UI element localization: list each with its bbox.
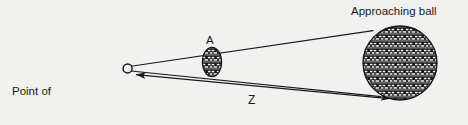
- label-approaching-ball: Approaching ball: [351, 4, 437, 19]
- observation-point-marker: [123, 64, 132, 73]
- approaching-ball: [363, 26, 437, 100]
- label-near-ball-a: A: [206, 33, 214, 48]
- diagram-canvas: Point of observation (O) Approaching bal…: [0, 0, 468, 125]
- label-distance-z: Z: [248, 93, 255, 108]
- distance-arrow-z: [136, 75, 389, 99]
- lower-sight-line: [131, 71, 381, 97]
- label-point-of-observation: Point of observation (O): [12, 55, 91, 125]
- label-point-of-observation-line1: Point of: [12, 84, 91, 99]
- upper-sight-line: [131, 31, 373, 67]
- near-ball-a: [202, 47, 221, 76]
